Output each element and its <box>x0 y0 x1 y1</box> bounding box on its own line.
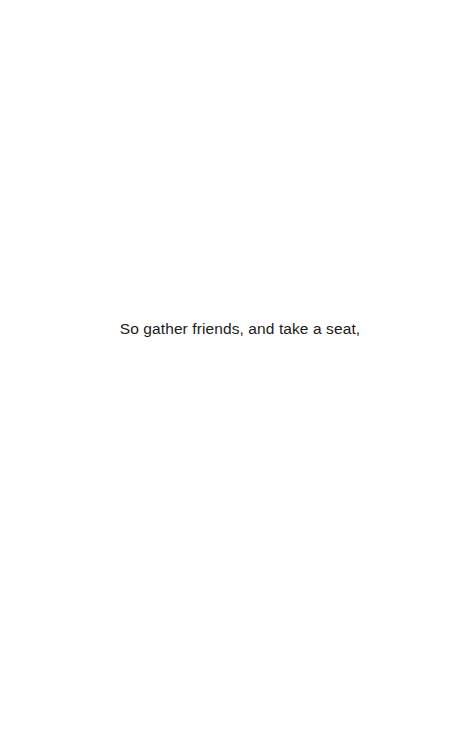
document-page: So gather friends, and take a seat, <box>0 0 453 749</box>
verse-line: So gather friends, and take a seat, <box>0 320 453 338</box>
